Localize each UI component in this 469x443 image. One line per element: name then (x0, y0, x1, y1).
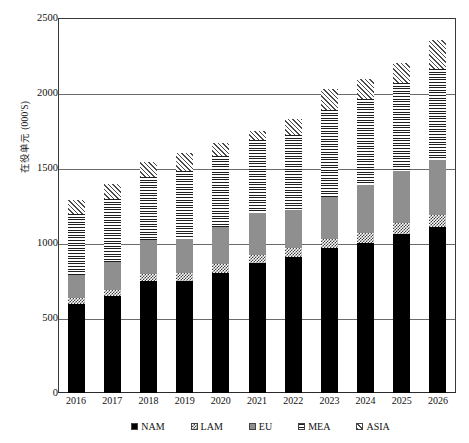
stacked-bar-2018[interactable] (140, 162, 157, 393)
bar-segment-asia-2016 (68, 200, 85, 214)
bar-segment-mea-2021 (249, 140, 266, 214)
legend-item-eu[interactable]: EU (249, 421, 272, 432)
legend-item-mea[interactable]: MEA (298, 421, 330, 432)
bar-segment-lam-2023 (321, 239, 338, 248)
stacked-bar-2022[interactable] (285, 119, 302, 393)
solid-black-swatch (131, 423, 138, 430)
diagonal-lines-swatch (356, 423, 363, 430)
bar-segment-lam-2018 (140, 274, 157, 282)
bar-segment-lam-2019 (176, 273, 193, 281)
bar-segment-eu-2026 (429, 160, 446, 215)
x-tick-label-2016: 2016 (58, 395, 94, 406)
stacked-bar-2025[interactable] (393, 63, 410, 393)
x-tick-label-2024: 2024 (348, 395, 384, 406)
horizontal-lines-swatch (298, 423, 305, 430)
bar-segment-nam-2019 (176, 281, 193, 393)
bar-segment-nam-2018 (140, 281, 157, 393)
bar-segment-mea-2020 (212, 156, 229, 227)
stacked-bar-2026[interactable] (429, 40, 446, 393)
bar-segment-eu-2021 (249, 213, 266, 255)
bar-segment-lam-2026 (429, 215, 446, 227)
bar-segment-mea-2018 (140, 177, 157, 240)
stacked-bar-2023[interactable] (321, 89, 338, 394)
bar-segment-asia-2024 (357, 79, 374, 99)
bar-slot-2025 (384, 18, 420, 393)
x-axis-tick-labels: 2016201720182019202020212022202320242025… (58, 395, 456, 406)
bar-slot-2019 (167, 18, 203, 393)
bar-segment-mea-2022 (285, 135, 302, 210)
stacked-bar-2016[interactable] (68, 200, 85, 394)
bar-slot-2024 (348, 18, 384, 393)
bar-segment-nam-2026 (429, 227, 446, 394)
bar-segment-nam-2020 (212, 273, 229, 393)
bar-segment-mea-2025 (393, 83, 410, 171)
x-tick-label-2018: 2018 (130, 395, 166, 406)
bar-segment-nam-2017 (104, 296, 121, 393)
bar-segment-lam-2021 (249, 255, 266, 263)
x-tick-label-2025: 2025 (384, 395, 420, 406)
y-tick-label-2000: 2000 (18, 87, 58, 98)
y-tick-label-500: 500 (18, 312, 58, 323)
bar-segment-eu-2020 (212, 227, 229, 265)
bar-segment-eu-2018 (140, 240, 157, 274)
bar-segment-lam-2020 (212, 264, 229, 273)
bar-segment-asia-2020 (212, 143, 229, 157)
bar-slot-2016 (58, 18, 94, 393)
legend-label-mea: MEA (308, 421, 330, 432)
bar-segment-asia-2025 (393, 63, 410, 83)
bar-segment-eu-2016 (68, 275, 85, 298)
bar-segment-mea-2023 (321, 110, 338, 198)
bar-segment-lam-2022 (285, 248, 302, 258)
bar-segment-nam-2023 (321, 248, 338, 393)
bar-segment-lam-2017 (104, 290, 121, 297)
bar-segment-mea-2019 (176, 171, 193, 239)
legend-item-nam[interactable]: NAM (131, 421, 164, 432)
bar-slot-2017 (94, 18, 130, 393)
stacked-bar-2024[interactable] (357, 79, 374, 393)
y-tick-label-0: 0 (18, 387, 58, 398)
bar-segment-mea-2016 (68, 214, 85, 275)
solid-gray-swatch (249, 423, 256, 430)
x-tick-label-2020: 2020 (203, 395, 239, 406)
legend-label-eu: EU (259, 421, 272, 432)
stacked-bar-chart: 在役单元 (000'S) 05001000150020002500 201620… (0, 0, 469, 443)
bar-segment-mea-2026 (429, 69, 446, 160)
bar-segment-asia-2017 (104, 184, 121, 199)
x-tick-label-2017: 2017 (94, 395, 130, 406)
legend-item-asia[interactable]: ASIA (356, 421, 389, 432)
stacked-bar-2019[interactable] (176, 153, 193, 393)
legend-label-asia: ASIA (366, 421, 389, 432)
bar-slot-2023 (311, 18, 347, 393)
bar-slot-2026 (420, 18, 456, 393)
bar-slot-2018 (130, 18, 166, 393)
bar-segment-nam-2016 (68, 304, 85, 393)
bar-segment-nam-2025 (393, 234, 410, 393)
bar-segment-lam-2024 (357, 233, 374, 244)
bar-segment-nam-2024 (357, 243, 374, 393)
x-tick-label-2021: 2021 (239, 395, 275, 406)
bar-segment-asia-2018 (140, 162, 157, 177)
x-tick-label-2019: 2019 (167, 395, 203, 406)
bar-segment-asia-2026 (429, 40, 446, 69)
bar-segment-mea-2024 (357, 99, 374, 185)
bar-segment-asia-2019 (176, 153, 193, 171)
bar-slot-2022 (275, 18, 311, 393)
legend-label-nam: NAM (141, 421, 164, 432)
bar-segment-eu-2025 (393, 171, 410, 223)
y-tick-label-1500: 1500 (18, 162, 58, 173)
x-tick-label-2026: 2026 (420, 395, 456, 406)
stacked-bar-2020[interactable] (212, 143, 229, 394)
bar-segment-lam-2025 (393, 223, 410, 234)
bar-segment-nam-2021 (249, 263, 266, 393)
bar-segment-asia-2021 (249, 131, 266, 139)
legend-item-lam[interactable]: LAM (191, 421, 223, 432)
x-tick-label-2022: 2022 (275, 395, 311, 406)
bar-segment-eu-2022 (285, 210, 302, 248)
stacked-bar-2017[interactable] (104, 184, 121, 393)
chart-legend: NAMLAMEUMEAASIA (58, 421, 463, 432)
stacked-bar-2021[interactable] (249, 131, 266, 393)
x-tick-label-2023: 2023 (311, 395, 347, 406)
y-tick-label-1000: 1000 (18, 237, 58, 248)
bar-segment-eu-2024 (357, 185, 374, 233)
bar-segment-asia-2022 (285, 119, 302, 135)
